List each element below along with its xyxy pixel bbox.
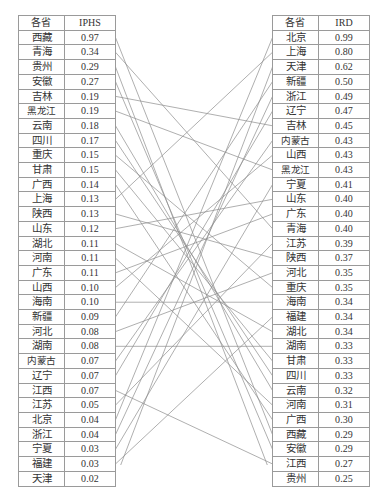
cell-province: 四川 (19, 133, 65, 148)
province-label: 黑龙江 (27, 105, 56, 116)
cell-value: 0.08 (65, 339, 116, 354)
table-row: 内蒙古0.43 (273, 133, 370, 148)
cell-province: 西藏 (19, 30, 65, 45)
province-label: 西藏 (286, 429, 306, 440)
connector-line (116, 214, 273, 273)
cell-province: 四川 (273, 368, 319, 383)
province-label: 河北 (286, 267, 306, 278)
table-row: 陕西0.13 (19, 207, 116, 222)
cell-value: 0.11 (65, 265, 116, 280)
province-label: 河南 (32, 252, 52, 263)
table-row: 江苏0.05 (19, 398, 116, 413)
cell-province: 上海 (19, 192, 65, 207)
cell-province: 天津 (273, 60, 319, 75)
cell-value: 0.34 (319, 324, 370, 339)
cell-province: 浙江 (273, 89, 319, 104)
cell-value: 0.17 (65, 133, 116, 148)
province-label: 四川 (286, 370, 306, 381)
cell-value: 0.34 (65, 45, 116, 60)
province-label: 浙江 (32, 429, 52, 440)
cell-province: 宁夏 (273, 177, 319, 192)
cell-province: 天津 (19, 471, 65, 486)
header-value-right: IRD (319, 16, 370, 31)
connector-line (116, 243, 273, 331)
province-label: 贵州 (286, 473, 306, 484)
table-row: 山西0.43 (273, 148, 370, 163)
cell-value: 0.09 (65, 310, 116, 325)
province-label: 黑龙江 (281, 164, 310, 175)
province-label: 江西 (286, 458, 306, 469)
cell-province: 广东 (19, 265, 65, 280)
connector-line (116, 96, 273, 125)
table-row: 黑龙江0.19 (19, 104, 116, 119)
cell-value: 0.99 (319, 30, 370, 45)
province-label: 吉林 (286, 120, 306, 131)
cell-province: 吉林 (273, 118, 319, 133)
province-label: 贵州 (32, 61, 52, 72)
cell-province: 江西 (19, 383, 65, 398)
cell-value: 0.35 (319, 265, 370, 280)
province-label: 宁夏 (32, 443, 52, 454)
cell-value: 0.11 (65, 236, 116, 251)
province-label: 广东 (32, 267, 52, 278)
table-row: 青海0.34 (19, 45, 116, 60)
province-label: 内蒙古 (27, 355, 56, 366)
cell-province: 湖南 (19, 339, 65, 354)
connector-line (116, 390, 273, 464)
connector-line (116, 140, 273, 361)
cell-province: 贵州 (19, 60, 65, 75)
table-row: 重庆0.15 (19, 148, 116, 163)
cell-value: 0.43 (319, 163, 370, 178)
cell-province: 福建 (273, 310, 319, 325)
table-row: 新疆0.09 (19, 310, 116, 325)
table-row: 湖南0.08 (19, 339, 116, 354)
province-label: 海南 (32, 296, 52, 307)
cell-value: 0.40 (319, 207, 370, 222)
table-row: 四川0.17 (19, 133, 116, 148)
table-row: 青海0.40 (273, 221, 370, 236)
table-row: 上海0.80 (273, 45, 370, 60)
cell-province: 贵州 (273, 471, 319, 486)
connector-line (116, 170, 273, 361)
province-label: 吉林 (32, 91, 52, 102)
table-row: 内蒙古0.07 (19, 354, 116, 369)
cell-value: 0.19 (65, 89, 116, 104)
cell-value: 0.15 (65, 148, 116, 163)
province-label: 湖南 (32, 340, 52, 351)
connector-line (116, 273, 273, 332)
cell-value: 0.03 (65, 457, 116, 472)
table-row: 吉林0.45 (273, 118, 370, 133)
province-label: 天津 (286, 61, 306, 72)
table-row: 湖北0.11 (19, 236, 116, 251)
cell-province: 山西 (19, 280, 65, 295)
header-value-left: IPHS (65, 16, 116, 31)
province-label: 云南 (32, 120, 52, 131)
cell-province: 山东 (273, 192, 319, 207)
cell-value: 0.97 (65, 30, 116, 45)
province-label: 湖北 (286, 326, 306, 337)
cell-value: 0.15 (65, 163, 116, 178)
cell-province: 内蒙古 (273, 133, 319, 148)
connector-line (116, 38, 273, 420)
cell-province: 海南 (19, 295, 65, 310)
cell-province: 安徽 (19, 74, 65, 89)
province-label: 安徽 (286, 443, 306, 454)
cell-province: 甘肃 (273, 354, 319, 369)
cell-province: 山东 (19, 221, 65, 236)
province-label: 广西 (286, 414, 306, 425)
cell-province: 重庆 (19, 148, 65, 163)
province-label: 湖北 (32, 238, 52, 249)
province-label: 西藏 (32, 32, 52, 43)
connector-line (116, 82, 273, 450)
cell-province: 江苏 (19, 398, 65, 413)
province-label: 山西 (32, 282, 52, 293)
ipns-rank-table: 各省 IPHS 西藏0.97青海0.34贵州0.29安徽0.27吉林0.19黑龙… (18, 15, 116, 487)
province-label: 甘肃 (32, 164, 52, 175)
cell-value: 0.07 (65, 368, 116, 383)
province-label: 广东 (286, 208, 306, 219)
cell-province: 河南 (273, 398, 319, 413)
connector-line (116, 111, 273, 376)
connector-line (116, 185, 273, 420)
cell-province: 福建 (19, 457, 65, 472)
province-label: 山东 (286, 193, 306, 204)
